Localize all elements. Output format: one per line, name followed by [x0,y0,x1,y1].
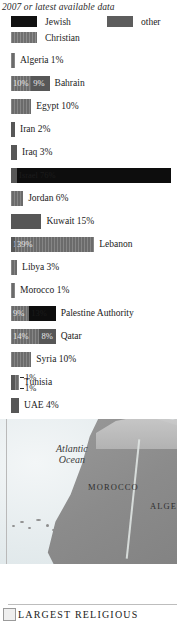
legend-swatch-christian [11,32,37,43]
bar-row-label: Qatar [61,329,82,344]
bar-segment-christian: 10% [11,76,31,91]
bar-segment-christian [11,99,31,114]
bar-segment-christian [11,352,31,367]
map-island-dots [10,515,60,535]
bar-row-label: Egypt 10% [36,99,78,114]
bar-row: Libya 3% [11,256,177,279]
caption-title: LARGEST RELIGIOUS [18,609,139,620]
bar-row: Iraq 3% [11,141,177,164]
bar-row: Iran 2% [11,118,177,141]
map-label-atlantic-ocean: Atlantic Ocean [56,443,88,465]
bar-row-label: Kuwait 15% [46,214,94,229]
bar-stack [11,352,31,367]
bar-row-label: Libya 3% [22,260,59,275]
bar-row: 14%8%Qatar [11,325,177,348]
bar-row: 1%39%Lebanon [11,233,177,256]
bar-stack: 14%8% [11,329,56,344]
bar-stack [11,122,15,137]
bar-row: Morocco 1% [11,279,177,302]
legend-item-other: other [107,16,161,27]
map-label-algeria: ALGER [150,501,177,511]
bar-value-label: 10% [11,76,31,91]
map-label-morocco: MOROCCO [88,482,139,492]
bar-segment-jewish: Israel 76% [17,168,171,183]
bar-segment-other [11,145,17,160]
legend-swatch-other [107,16,133,27]
bar-stack: 10%9% [11,76,50,91]
bar-stack [11,283,15,298]
bar-value-label: 9% [11,306,26,321]
bar-segment-other [11,122,15,137]
bar-segment-jewish: 13% [29,306,55,321]
bar-row: 10%9%Bahrain [11,72,177,95]
bar-row-label: Bahrain [55,76,85,91]
bar-row: Israel 76% [11,164,177,187]
bar-segment-christian [11,283,15,298]
legend-item-christian: Christian [11,32,80,43]
bar-stack [11,191,23,206]
bar-leader-label: 1% [25,372,36,382]
chart-subtitle: 2007 or latest available data [0,0,177,13]
legend-item-jewish: Jewish [11,16,71,27]
bar-segment-christian: 39% [15,237,94,252]
map-label-ocean-line1: Atlantic [56,443,88,454]
bar-chart-rows: Algeria 1%10%9%BahrainEgypt 10%Iran 2%Ir… [0,49,177,417]
bar-segment-other: 8% [39,329,55,344]
map-label-ocean-line2: Ocean [59,454,85,465]
bar-value-label: 13% [29,306,49,321]
bar-row: Kuwait 15% [11,210,177,233]
region-map: Atlantic Ocean MOROCCO ALGER [0,419,177,564]
bar-row-label: Morocco 1% [20,283,69,298]
bar-row-label: Iran 2% [20,122,50,137]
chart-legend: Jewish other Christian [0,15,177,49]
bar-row-label: Iraq 3% [22,145,52,160]
legend-swatch-jewish [11,16,37,27]
bar-row-label: Jordan 6% [28,191,68,206]
legend-label-christian: Christian [45,33,80,43]
bar-segment-christian [11,191,23,206]
bar-stack [11,375,19,390]
bar-value-label: Israel 76% [17,168,58,183]
bar-row: Egypt 10% [11,95,177,118]
bar-segment-christian: 14% [11,329,39,344]
bar-segment-other: 9% [31,76,49,91]
bar-stack [11,398,19,413]
bottom-caption: LARGEST RELIGIOUS [0,604,177,626]
bar-segment-other [11,398,19,413]
bar-stack: Israel 76% [11,168,171,183]
bar-row: Jordan 6% [11,187,177,210]
bar-row: 9%13%Palestine Authority [11,302,177,325]
bar-value-label: 39% [15,237,35,252]
bar-stack: 1%39% [11,237,94,252]
bar-row: Algeria 1% [11,49,177,72]
bar-row: Tunisia1%1% [11,371,177,394]
bar-row-label: Syria 10% [36,352,76,367]
bar-stack [11,260,17,275]
bar-row-label: UAE 4% [24,398,59,413]
bar-leader-label: 1% [25,383,36,393]
bar-row-label: Algeria 1% [20,53,64,68]
bar-stack [11,214,41,229]
bar-stack [11,145,17,160]
bar-value-label: 8% [39,329,54,344]
bar-stack [11,53,15,68]
legend-label-other: other [141,17,161,27]
bar-row: Syria 10% [11,348,177,371]
bar-stack: 9%13% [11,306,56,321]
bar-value-label: 9% [31,76,46,91]
bar-value-label: 14% [11,329,31,344]
bar-row-label: Palestine Authority [61,306,134,321]
bar-row-label: Lebanon [99,237,132,252]
bar-segment-other [11,214,41,229]
infographic-panel: 2007 or latest available data Jewish oth… [0,0,177,626]
bar-segment-christian [11,53,15,68]
bar-segment-christian [15,375,19,390]
caption-rule [8,604,177,605]
caption-marker-icon [3,608,16,621]
bar-segment-christian [11,260,17,275]
bar-row: UAE 4% [11,394,177,417]
bar-segment-christian: 9% [11,306,29,321]
bar-stack [11,99,31,114]
legend-label-jewish: Jewish [45,17,71,27]
